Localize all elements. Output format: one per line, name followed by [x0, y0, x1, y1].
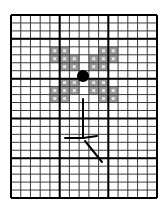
- cell-center-mark: [73, 65, 76, 68]
- cell-center-mark: [63, 89, 66, 92]
- cell-center-mark: [73, 89, 76, 92]
- cell-center-mark: [53, 57, 56, 60]
- cell-center-mark: [53, 89, 56, 92]
- cell-center-mark: [112, 57, 115, 60]
- cell-center-mark: [112, 89, 115, 92]
- cell-center-mark: [102, 97, 105, 100]
- cell-center-mark: [112, 97, 115, 100]
- grid-diagram: [0, 0, 166, 210]
- cell-center-mark: [102, 65, 105, 68]
- cell-center-mark: [92, 57, 95, 60]
- cell-center-mark: [63, 49, 66, 52]
- cell-center-mark: [73, 81, 76, 84]
- cell-center-mark: [63, 57, 66, 60]
- cell-center-mark: [112, 49, 115, 52]
- cell-center-mark: [102, 49, 105, 52]
- cell-center-mark: [102, 81, 105, 84]
- cell-center-mark: [63, 81, 66, 84]
- cell-center-mark: [63, 65, 66, 68]
- cell-center-mark: [92, 81, 95, 84]
- cell-center-mark: [53, 49, 56, 52]
- cell-center-mark: [63, 97, 66, 100]
- center-dot: [77, 70, 89, 82]
- cell-center-mark: [92, 89, 95, 92]
- cell-center-mark: [92, 65, 95, 68]
- right-arm: [83, 136, 97, 138]
- cell-center-mark: [53, 97, 56, 100]
- cell-center-mark: [102, 89, 105, 92]
- cell-center-mark: [102, 57, 105, 60]
- stroke-figure: [65, 99, 102, 162]
- cell-center-mark: [73, 57, 76, 60]
